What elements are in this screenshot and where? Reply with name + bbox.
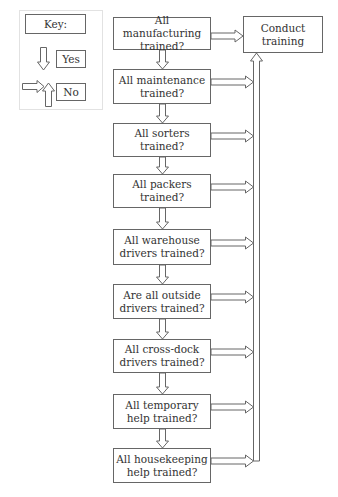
yes-down-arrow-icon [157, 265, 169, 284]
conduct-training-text: Conduct training [261, 22, 306, 48]
decision-text: All warehouse drivers trained? [119, 234, 204, 260]
decision-text: All manufacturing trained? [116, 14, 208, 53]
no-right-arrow-icon [211, 130, 254, 142]
decision-text: All sorters trained? [134, 127, 189, 153]
yes-down-arrow-icon [157, 373, 169, 394]
decision-box: All temporary help trained? [113, 394, 211, 429]
decision-text: All housekeeping help trained? [116, 453, 207, 479]
conduct-training-box: Conduct training [243, 16, 323, 53]
yes-down-arrow-icon [157, 157, 169, 174]
decision-box: All housekeeping help trained? [113, 448, 211, 483]
yes-down-arrow-icon [157, 104, 169, 123]
decision-box: All warehouse drivers trained? [113, 229, 211, 265]
yes-down-arrow-icon [157, 429, 169, 448]
no-right-arrow-icon [211, 455, 254, 467]
no-right-arrow-icon [211, 181, 254, 193]
key-no-right-arrow-icon [23, 81, 45, 93]
no-right-arrow-icon [211, 291, 254, 303]
no-right-arrow-icon [211, 30, 243, 42]
no-right-arrow-icon [211, 237, 254, 249]
decision-text: All temporary help trained? [125, 399, 198, 425]
decision-box: Are all outside drivers trained? [113, 284, 211, 319]
decision-box: All packers trained? [113, 174, 211, 208]
decision-text: Are all outside drivers trained? [119, 289, 204, 315]
decision-text: All packers trained? [132, 178, 191, 204]
decision-text: All cross-dock drivers trained? [119, 343, 204, 369]
no-right-arrow-icon [211, 401, 254, 413]
decision-box: All sorters trained? [113, 123, 211, 157]
decision-text: All maintenance trained? [119, 74, 205, 100]
decision-box: All cross-dock drivers trained? [113, 339, 211, 373]
decision-box: All manufacturing trained? [113, 17, 211, 50]
key-yes-down-arrow-icon [38, 48, 50, 71]
decision-box: All maintenance trained? [113, 69, 211, 104]
yes-down-arrow-icon [157, 208, 169, 229]
collector-up-arrow-icon [251, 53, 263, 461]
no-right-arrow-icon [211, 346, 254, 358]
yes-down-arrow-icon [157, 319, 169, 339]
no-right-arrow-icon [211, 76, 254, 88]
